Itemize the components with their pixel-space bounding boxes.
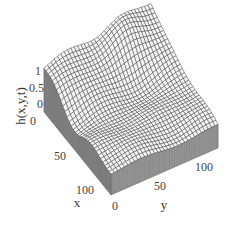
z-axis: h(x,y,t) 1 0.5 0 (13, 64, 44, 125)
x-tick-50: 50 (54, 149, 66, 163)
z-tick-0.5: 0.5 (29, 81, 44, 95)
y-tick-0: 0 (112, 199, 118, 213)
z-tick-0: 0 (37, 97, 43, 111)
z-tick-1: 1 (35, 64, 41, 78)
x-axis-label: x (74, 195, 81, 210)
y-axis-label: y (161, 197, 168, 212)
z-axis-label: h(x,y,t) (13, 87, 28, 124)
x-tick-0: 0 (30, 114, 36, 128)
y-tick-100: 100 (195, 160, 213, 174)
surface-plot: h(x,y,t) 1 0.5 0 0 50 100 x 0 50 100 y (0, 0, 232, 225)
y-tick-50: 50 (154, 179, 166, 193)
